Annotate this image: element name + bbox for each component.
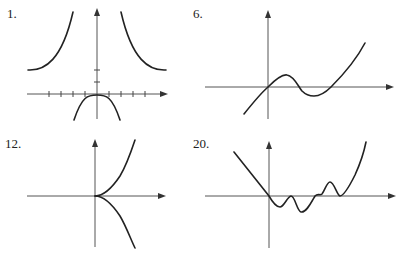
graph-20-curve [234, 142, 366, 212]
graph-12 [27, 139, 166, 248]
graph-1-left-branch [28, 12, 73, 70]
graph-1 [27, 8, 168, 120]
graph-12-upper-branch [95, 140, 135, 196]
graphs-canvas [0, 0, 400, 255]
graph-6 [205, 10, 394, 119]
graph-1-right-branch [121, 12, 166, 70]
graph-20-y-arrow-icon [266, 141, 272, 149]
graph-6-x-arrow-icon [386, 84, 394, 90]
graph-12-x-arrow-icon [158, 193, 166, 199]
graph-6-curve [244, 43, 365, 114]
graph-20 [205, 141, 396, 248]
graph-20-x-arrow-icon [388, 193, 396, 199]
graph-12-lower-branch [95, 196, 135, 248]
graph-1-y-arrow-icon [94, 8, 100, 16]
graph-1-x-arrow-icon [160, 91, 168, 97]
graph-12-y-arrow-icon [92, 139, 98, 147]
graph-6-y-arrow-icon [265, 10, 271, 18]
